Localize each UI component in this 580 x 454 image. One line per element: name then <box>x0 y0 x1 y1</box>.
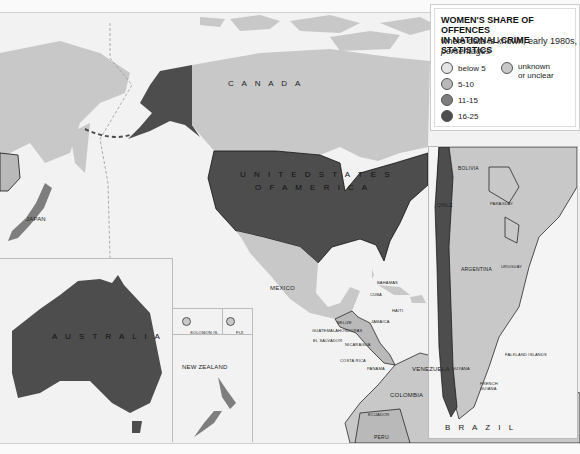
label-colombia: COLOMBIA <box>390 392 423 398</box>
swatch-below5-icon <box>441 62 453 74</box>
label-argentina: ARGENTINA <box>461 266 492 272</box>
label-honduras: HONDURAS <box>338 328 363 333</box>
alaska-shape <box>128 65 200 139</box>
label-solomon: SOLOMON IS. <box>190 330 219 335</box>
japan-shape <box>8 183 52 241</box>
label-belize: BELIZE <box>337 320 352 325</box>
label-panama: PANAMA <box>367 366 385 371</box>
label-french-guiana: FRENCH GUIANA <box>480 381 502 391</box>
swatch-5-10-icon <box>441 78 453 90</box>
legend-subtitle: where data is known, early 1980s, percen… <box>441 36 577 56</box>
label-japan: JAPAN <box>26 216 46 222</box>
cuba-shape <box>378 285 410 295</box>
label-canada: C A N A D A <box>228 79 303 88</box>
legend-item-16-25: 16-25 <box>441 110 478 122</box>
label-falklands: FALKLAND ISLANDS <box>505 352 547 357</box>
legend-item-5-10: 5-10 <box>441 78 474 90</box>
label-usa-line1: U N I T E D S T A T E S <box>240 170 393 179</box>
south-america-inset-map <box>429 147 577 438</box>
fiji-marker-icon <box>226 317 235 326</box>
label-el-salvador: EL SALVADOR <box>313 338 342 343</box>
label-uruguay: URUGUAY <box>501 264 522 269</box>
label-bolivia: BOLIVIA <box>458 165 479 171</box>
label-new-zealand: NEW ZEALAND <box>182 364 228 370</box>
label-guyana: GUYANA <box>452 366 470 371</box>
canada-shape <box>192 49 430 161</box>
legend-label-below5: below 5 <box>458 64 486 73</box>
label-cuba: CUBA <box>370 292 382 297</box>
legend-subtitle-text: where data is known, early 1980s, <box>441 36 577 46</box>
label-nicaragua: NICARAGUA <box>345 342 371 347</box>
new-zealand-inset <box>172 334 253 442</box>
russia-east <box>0 41 130 173</box>
label-mexico: MEXICO <box>270 285 295 291</box>
arctic-islands <box>200 15 440 51</box>
legend-title-line1: WOMEN'S SHARE OF OFFENCES <box>441 15 579 35</box>
label-jamaica: JAMAICA <box>371 319 390 324</box>
label-paraguay: PARAGUAY <box>490 201 513 206</box>
bahamas-shape <box>372 269 374 279</box>
swatch-16-25-icon <box>441 110 453 122</box>
legend-label-5-10: 5-10 <box>458 80 474 89</box>
solomon-marker-icon <box>182 317 191 326</box>
legend-label-11-15: 11-15 <box>458 96 478 105</box>
hispaniola-shape <box>410 295 426 303</box>
legend-item-11-15: 11-15 <box>441 94 478 106</box>
south-america-inset <box>428 146 578 439</box>
legend-item-below5: below 5 <box>441 62 486 74</box>
australia-inset <box>0 258 173 442</box>
map-legend: WOMEN'S SHARE OF OFFENCES IN NATIONAL CR… <box>430 4 580 131</box>
label-venezuela: VENEZUELA <box>412 366 449 372</box>
legend-label-16-25: 16-25 <box>458 112 478 121</box>
label-costa-rica: COSTA RICA <box>340 358 366 363</box>
swatch-unknown-icon <box>501 62 513 74</box>
label-usa-line2: O F A M E R I C A <box>255 183 370 192</box>
usa-shape <box>208 151 428 263</box>
label-guatemala: GUATEMALA <box>312 328 338 333</box>
legend-unknown-line1: unknown <box>518 62 550 71</box>
label-brazil: B R A Z I L <box>445 423 516 432</box>
legend-label-unknown: unknown or unclear <box>518 62 554 80</box>
label-ecuador: ECUADOR <box>368 412 389 417</box>
label-australia: A U S T R A L I A <box>52 332 163 341</box>
legend-subtitle-italic: percentages <box>441 46 491 56</box>
label-peru: PERU <box>374 434 389 440</box>
label-chile: CHILE <box>437 202 453 208</box>
swatch-11-15-icon <box>441 94 453 106</box>
legend-item-unknown: unknown or unclear <box>501 62 554 80</box>
label-haiti: HAITI <box>392 308 403 313</box>
label-bahamas: BAHAMAS <box>377 280 398 285</box>
aleutians <box>85 129 130 137</box>
korea-china-edge <box>0 153 20 191</box>
label-fiji: FIJI <box>236 330 243 335</box>
legend-unknown-line2: or unclear <box>518 71 554 80</box>
